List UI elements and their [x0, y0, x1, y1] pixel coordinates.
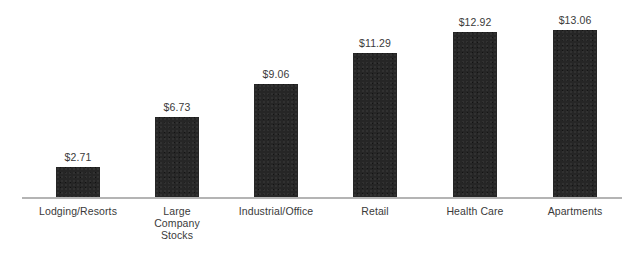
bar-group: $13.06: [553, 30, 597, 198]
bar-group: $12.92: [453, 32, 497, 198]
bar-group: $6.73: [155, 117, 199, 198]
bar-rect[interactable]: [56, 167, 100, 198]
bar-value-label: $12.92: [459, 16, 492, 28]
axis-label-industrial-office: Industrial/Office: [221, 199, 331, 217]
bar-rect[interactable]: [254, 84, 298, 198]
axis-label-large-company-stocks: Large Company Stocks: [122, 199, 232, 242]
bar-group: $9.06: [254, 84, 298, 198]
axis-label-line: Company: [122, 217, 232, 229]
axis-label-retail: Retail: [320, 199, 430, 217]
axis-label-apartments: Apartments: [520, 199, 630, 217]
bar-group: $2.71: [56, 167, 100, 198]
plot-area: $2.71 $6.73 $9.06 $11.29 $12.92 $13.06: [0, 0, 643, 198]
axis-label-line: Stocks: [122, 229, 232, 241]
axis-label-line: Health Care: [420, 205, 530, 217]
axis-label-line: Large: [122, 205, 232, 217]
axis-label-line: Retail: [320, 205, 430, 217]
axis-label-lodging-resorts: Lodging/Resorts: [23, 199, 133, 217]
bar-value-label: $11.29: [359, 37, 391, 49]
axis-label-line: Industrial/Office: [221, 205, 331, 217]
bar-rect[interactable]: [353, 53, 397, 198]
axis-label-line: Lodging/Resorts: [23, 205, 133, 217]
axis-label-line: Apartments: [520, 205, 630, 217]
bar-chart: $2.71 $6.73 $9.06 $11.29 $12.92 $13.06 L…: [0, 0, 643, 265]
bar-value-label: $6.73: [164, 101, 191, 113]
bar-value-label: $9.06: [263, 68, 290, 80]
bar-rect[interactable]: [453, 32, 497, 198]
bar-value-label: $13.06: [559, 14, 592, 26]
bar-group: $11.29: [353, 53, 397, 198]
bar-rect[interactable]: [553, 30, 597, 198]
bar-rect[interactable]: [155, 117, 199, 198]
bar-value-label: $2.71: [65, 151, 92, 163]
axis-label-health-care: Health Care: [420, 199, 530, 217]
x-axis-labels: Lodging/Resorts Large Company Stocks Ind…: [0, 199, 643, 265]
